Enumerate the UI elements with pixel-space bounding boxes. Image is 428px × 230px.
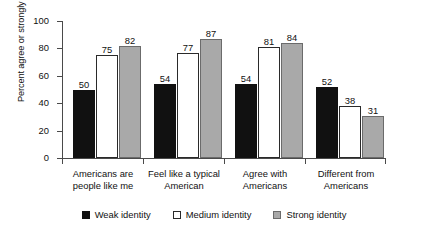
bar-value-weak-1: 50 bbox=[79, 79, 89, 90]
bar-value-strong-2: 87 bbox=[206, 28, 216, 39]
legend-label-medium-identity: Medium identity bbox=[186, 209, 252, 220]
bar-value-strong-4: 31 bbox=[368, 105, 378, 116]
x-category-label-4-line2: Americans bbox=[298, 180, 394, 192]
x-category-label-4: Different from Americans bbox=[298, 168, 394, 191]
y-tick-20: 20 bbox=[57, 131, 62, 132]
bar-medium-different-from-americans: 38 bbox=[339, 106, 361, 158]
y-tick-100: 100 bbox=[57, 21, 62, 22]
y-tick-label-40: 40 bbox=[39, 97, 49, 108]
legend-swatch-strong-icon bbox=[273, 211, 281, 219]
bar-medium-feel-like-a-typical-american: 77 bbox=[177, 53, 199, 159]
x-tick-start bbox=[62, 159, 63, 164]
bar-strong-feel-like-a-typical-american: 87 bbox=[200, 39, 222, 158]
bar-value-medium-3: 81 bbox=[264, 36, 274, 47]
bar-weak-feel-like-a-typical-american: 54 bbox=[154, 84, 176, 158]
y-tick-label-60: 60 bbox=[39, 70, 49, 81]
legend-label-strong-identity: Strong identity bbox=[286, 209, 346, 220]
bar-weak-agree-with-americans: 54 bbox=[235, 84, 257, 158]
bar-value-weak-2: 54 bbox=[160, 73, 170, 84]
legend-item-strong-identity: Strong identity bbox=[273, 209, 346, 220]
bar-weak-americans-are-people-like-me: 50 bbox=[73, 90, 95, 159]
bar-value-weak-3: 54 bbox=[241, 73, 251, 84]
bar-strong-americans-are-people-like-me: 82 bbox=[119, 46, 141, 158]
legend-item-medium-identity: Medium identity bbox=[173, 209, 252, 220]
bar-chart-figure: Percent agree or strongly agree 0 20 40 … bbox=[0, 0, 428, 230]
legend-label-weak-identity: Weak identity bbox=[95, 209, 151, 220]
bar-strong-different-from-americans: 31 bbox=[362, 116, 384, 159]
y-axis-title: Percent agree or strongly agree bbox=[16, 0, 26, 114]
x-tick-1 bbox=[143, 159, 144, 164]
bar-value-medium-2: 77 bbox=[183, 42, 193, 53]
plot-area: 0 20 40 60 80 100 50 75 82 bbox=[62, 21, 385, 158]
bar-medium-agree-with-americans: 81 bbox=[258, 47, 280, 158]
bar-value-medium-1: 75 bbox=[102, 44, 112, 55]
x-tick-2 bbox=[224, 159, 225, 164]
legend-swatch-medium-icon bbox=[173, 211, 181, 219]
bar-value-strong-3: 84 bbox=[287, 32, 297, 43]
bar-strong-agree-with-americans: 84 bbox=[281, 43, 303, 158]
x-tick-3 bbox=[305, 159, 306, 164]
y-tick-label-20: 20 bbox=[39, 125, 49, 136]
bar-weak-different-from-americans: 52 bbox=[316, 87, 338, 158]
y-tick-label-0: 0 bbox=[44, 152, 49, 163]
legend-swatch-weak-icon bbox=[82, 211, 90, 219]
y-tick-label-80: 80 bbox=[39, 42, 49, 53]
bar-value-medium-4: 38 bbox=[345, 95, 355, 106]
y-tick-40: 40 bbox=[57, 103, 62, 104]
y-tick-60: 60 bbox=[57, 76, 62, 77]
bar-medium-americans-are-people-like-me: 75 bbox=[96, 55, 118, 158]
x-category-label-4-line1: Different from bbox=[298, 168, 394, 180]
x-tick-end bbox=[385, 159, 386, 164]
y-tick-label-100: 100 bbox=[33, 15, 49, 26]
legend-item-weak-identity: Weak identity bbox=[82, 209, 151, 220]
y-axis-line bbox=[62, 21, 63, 159]
chart-legend: Weak identity Medium identity Strong ide… bbox=[0, 209, 428, 220]
y-tick-80: 80 bbox=[57, 48, 62, 49]
bar-value-strong-1: 82 bbox=[125, 35, 135, 46]
bar-value-weak-4: 52 bbox=[322, 76, 332, 87]
